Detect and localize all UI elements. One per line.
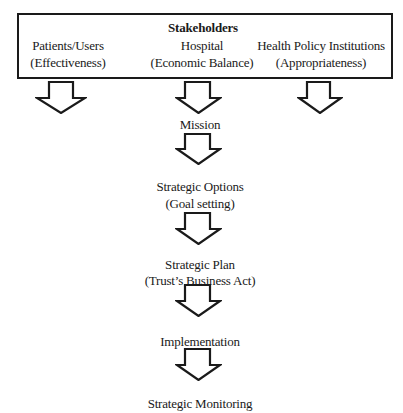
down-arrow-icon: [175, 284, 222, 317]
stakeholder-patients-name: Patients/Users: [22, 38, 114, 54]
stakeholder-patients-criterion: (Effectiveness): [22, 55, 114, 71]
flow-step-mission: Mission: [140, 117, 260, 133]
flow-step-strategic-plan: Strategic Plan: [120, 257, 280, 273]
down-arrow-icon: [175, 133, 222, 165]
stakeholder-hospital-name: Hospital: [146, 38, 258, 54]
stakeholder-health-policy-name: Health Policy Institutions: [252, 38, 390, 54]
down-arrow-icon: [175, 348, 222, 381]
down-arrow-icon: [35, 81, 87, 114]
down-arrow-icon: [175, 81, 222, 114]
stakeholder-health-policy-criterion: (Appropriateness): [252, 55, 390, 71]
flow-step-strategic-monitoring: Strategic Monitoring: [120, 396, 280, 412]
down-arrow-icon: [175, 212, 222, 245]
flow-step-strategic-options-detail: (Goal setting): [130, 196, 270, 212]
down-arrow-icon: [297, 81, 343, 114]
stakeholders-title: Stakeholders: [160, 20, 246, 36]
stakeholder-hospital-criterion: (Economic Balance): [146, 55, 258, 71]
flow-step-strategic-options: Strategic Options: [130, 179, 270, 195]
